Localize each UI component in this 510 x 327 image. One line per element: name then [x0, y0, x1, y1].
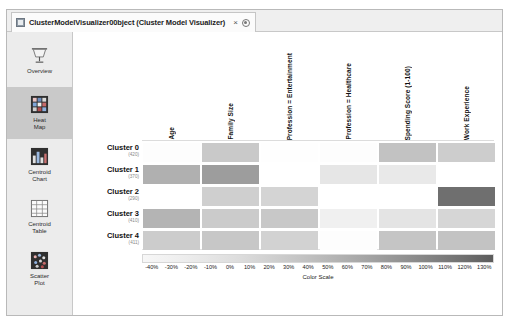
color-scale-tick: -40% — [145, 264, 158, 270]
heatmap-cell[interactable] — [320, 209, 377, 228]
column-header-label: Profession = Healthcare — [345, 63, 352, 140]
row-label-name: Cluster 1 — [73, 165, 139, 174]
color-scale-tick: 30% — [283, 264, 294, 270]
heatmap-cell[interactable] — [143, 209, 200, 228]
heatmap-cell[interactable] — [261, 165, 318, 184]
sidebar-item-label: Centroid Table — [28, 221, 51, 236]
heatmap-cell[interactable] — [379, 143, 436, 162]
color-scale-tick: -30% — [165, 264, 178, 270]
heatmap-cell[interactable] — [438, 187, 495, 206]
color-scale-tick: 60% — [342, 264, 353, 270]
sidebar-item-scatter-plot[interactable]: Scatter Plot — [7, 243, 72, 295]
heatmap-cell[interactable] — [320, 165, 377, 184]
sidebar-item-label: Centroid Chart — [28, 169, 51, 184]
tab-actions: × — [233, 19, 250, 27]
heatmap-cell[interactable] — [143, 187, 200, 206]
sidebar: Overview Heat Map — [7, 32, 73, 315]
column-header: Family Size — [225, 32, 237, 140]
color-scale-tick: -20% — [184, 264, 197, 270]
bar-chart-icon — [30, 147, 49, 166]
heatmap-cell[interactable] — [438, 165, 495, 184]
column-header: Profession = Healthcare — [343, 32, 355, 140]
tab-strip: ClusterModelVisualizer00bject (Cluster M… — [7, 10, 502, 32]
heatmap-cell[interactable] — [320, 187, 377, 206]
row-label-name: Cluster 0 — [73, 143, 139, 152]
window-body: Overview Heat Map — [7, 32, 502, 315]
row-label: Cluster 3(410) — [73, 209, 139, 224]
row-label-count: (420) — [73, 152, 139, 158]
heatmap-cell[interactable] — [202, 143, 259, 162]
column-header-label: Family Size — [227, 103, 234, 140]
tab-cluster-model-visualizer[interactable]: ClusterModelVisualizer00bject (Cluster M… — [11, 12, 256, 32]
color-scale-tick: 110% — [438, 264, 452, 270]
visualizer-window: ClusterModelVisualizer00bject (Cluster M… — [6, 9, 503, 316]
close-icon[interactable]: × — [233, 19, 238, 27]
heatmap-cell[interactable] — [143, 165, 200, 184]
sidebar-item-centroid-chart[interactable]: Centroid Chart — [7, 139, 72, 191]
table-grid-icon — [30, 199, 49, 218]
heatmap-cell[interactable] — [202, 187, 259, 206]
heatmap-cell[interactable] — [261, 187, 318, 206]
heatmap-panel: AgeFamily SizeProfession = Entertainment… — [73, 32, 502, 315]
color-scale-tick: 130% — [477, 264, 491, 270]
heatmap-cell[interactable] — [202, 165, 259, 184]
heatmap-cells — [142, 140, 494, 250]
color-scale-tick: 40% — [303, 264, 314, 270]
heatmap-cell[interactable] — [143, 143, 200, 162]
heatmap-cell[interactable] — [379, 209, 436, 228]
color-scale-tick: 90% — [400, 264, 411, 270]
color-scale-ticks: -40%-30%-20%-10%0%10%20%30%40%50%60%70%8… — [142, 264, 494, 274]
column-header: Spending Score (1-100) — [402, 32, 414, 140]
row-label-count: (290) — [73, 196, 139, 202]
heatmap-cell[interactable] — [320, 143, 377, 162]
heatmap-cell[interactable] — [261, 143, 318, 162]
row-label-name: Cluster 3 — [73, 209, 139, 218]
heatmap-cell[interactable] — [379, 187, 436, 206]
sidebar-item-heat-map[interactable]: Heat Map — [7, 87, 72, 139]
color-scale-tick: 10% — [244, 264, 255, 270]
presentation-icon — [30, 46, 49, 65]
color-scale-title: Color Scale — [142, 274, 494, 280]
color-scale-tick: 100% — [418, 264, 432, 270]
column-header-label: Profession = Entertainment — [286, 53, 293, 140]
window-icon — [16, 18, 25, 27]
sidebar-item-overview[interactable]: Overview — [7, 35, 72, 87]
heatmap-cell[interactable] — [143, 231, 200, 250]
color-scale-legend: -40%-30%-20%-10%0%10%20%30%40%50%60%70%8… — [142, 254, 494, 294]
heatmap-cell[interactable] — [202, 231, 259, 250]
sidebar-item-label: Heat Map — [33, 117, 46, 132]
heatmap-cell[interactable] — [202, 209, 259, 228]
row-label: Cluster 1(370) — [73, 165, 139, 180]
color-scale-tick: 50% — [322, 264, 333, 270]
heatmap-cell[interactable] — [379, 165, 436, 184]
heatmap-cell[interactable] — [438, 209, 495, 228]
heatmap-cell[interactable] — [320, 231, 377, 250]
row-label-name: Cluster 4 — [73, 231, 139, 240]
heatmap-cell[interactable] — [438, 143, 495, 162]
scatter-dots-icon — [30, 251, 49, 270]
heatmap-cell[interactable] — [438, 231, 495, 250]
column-headers: AgeFamily SizeProfession = Entertainment… — [73, 32, 494, 140]
column-header: Age — [166, 32, 178, 140]
row-label-name: Cluster 2 — [73, 187, 139, 196]
color-scale-gradient — [142, 254, 494, 263]
heatmap-cell[interactable] — [261, 209, 318, 228]
column-header: Work Experience — [461, 32, 473, 140]
row-label: Cluster 4(411) — [73, 231, 139, 246]
color-scale-tick: 80% — [381, 264, 392, 270]
color-scale-tick: -10% — [204, 264, 217, 270]
tab-title: ClusterModelVisualizer00bject (Cluster M… — [29, 18, 225, 27]
sidebar-item-centroid-table[interactable]: Centroid Table — [7, 191, 72, 243]
row-label: Cluster 2(290) — [73, 187, 139, 202]
color-scale-tick: 70% — [361, 264, 372, 270]
row-label-count: (370) — [73, 174, 139, 180]
heatmap-grid: Cluster 0(420)Cluster 1(370)Cluster 2(29… — [73, 140, 494, 250]
column-header-label: Age — [168, 127, 175, 140]
detach-icon[interactable] — [242, 19, 250, 27]
row-label: Cluster 0(420) — [73, 143, 139, 158]
row-label-count: (411) — [73, 240, 139, 246]
sidebar-item-label: Overview — [27, 68, 52, 76]
color-scale-tick: 0% — [226, 264, 234, 270]
heatmap-cell[interactable] — [261, 231, 318, 250]
heatmap-cell[interactable] — [379, 231, 436, 250]
